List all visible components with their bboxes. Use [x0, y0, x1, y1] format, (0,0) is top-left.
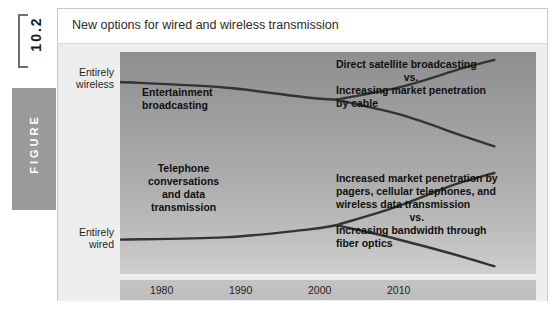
annotation-entertainment-broadcasting: Entertainment broadcasting: [142, 86, 213, 112]
annotation-telephone-conversations: Telephone conversations and data transmi…: [148, 162, 219, 214]
annotation-pagers-line3: wireless data transmission: [336, 198, 470, 210]
figure-tab-label: FIGURE: [28, 83, 40, 205]
figure-body: Entirely wireless Entirely wired Enterta…: [58, 44, 547, 301]
annotation-fiber-line1: Increasing bandwidth through: [336, 224, 487, 236]
annotation-satellite-line3: by cable: [336, 97, 378, 109]
figure-caption-bar: New options for wired and wireless trans…: [58, 9, 547, 44]
y-axis-label-wired: Entirely wired: [58, 226, 114, 250]
plot-area: Entertainment broadcasting Direct satell…: [120, 52, 536, 274]
annotation-satellite-vs: vs.: [336, 71, 486, 84]
annotation-telephone-line4: transmission: [151, 201, 216, 213]
y-axis-label-wired-line2: wired: [89, 238, 114, 250]
figure-number-block: 10.2: [18, 8, 52, 78]
figure-frame: New options for wired and wireless trans…: [57, 8, 548, 301]
y-axis-label-wireless-line1: Entirely: [79, 66, 114, 78]
annotation-pagers-line2: pagers, cellular telephones, and: [336, 185, 496, 197]
x-axis-tick: 2000: [300, 284, 340, 296]
annotation-satellite-line1: Direct satellite broadcasting: [336, 58, 477, 70]
annotation-satellite-vs-cable: Direct satellite broadcasting vs. Increa…: [336, 58, 486, 110]
x-axis-band: 1980199020002010: [120, 280, 536, 300]
annotation-pagers-vs-fiber: Increased market penetration by pagers, …: [336, 172, 498, 250]
y-axis-label-wireless-line2: wireless: [76, 78, 114, 90]
annotation-entertainment-line2: broadcasting: [142, 99, 208, 111]
chart-line: [120, 225, 336, 239]
annotation-pagers-line1: Increased market penetration by: [336, 172, 498, 184]
figure-number-text: 10.2: [28, 4, 44, 64]
figure-number-bracket: [18, 14, 28, 68]
figure-caption: New options for wired and wireless trans…: [72, 18, 339, 32]
x-axis-tick: 2010: [379, 284, 419, 296]
annotation-telephone-line2: conversations: [148, 175, 219, 187]
annotation-telephone-line3: and data: [162, 188, 205, 200]
annotation-telephone-line1: Telephone: [158, 162, 210, 174]
annotation-pagers-vs: vs.: [336, 211, 498, 224]
y-axis-label-wired-line1: Entirely: [79, 226, 114, 238]
y-axis-label-wireless: Entirely wireless: [58, 66, 114, 90]
annotation-fiber-line2: fiber optics: [336, 237, 393, 249]
x-axis-tick: 1980: [142, 284, 182, 296]
annotation-satellite-line2: Increasing market penetration: [336, 84, 486, 96]
annotation-entertainment-line1: Entertainment: [142, 86, 213, 98]
figure-tab: FIGURE: [12, 88, 56, 210]
x-axis-tick: 1990: [221, 284, 261, 296]
